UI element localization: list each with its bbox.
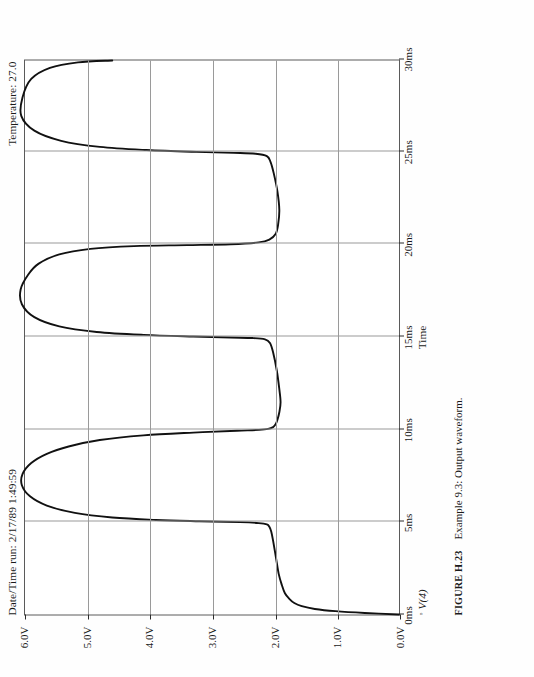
x-tick-label: 25ms bbox=[402, 140, 414, 164]
y-axis-tick bbox=[88, 614, 89, 619]
y-axis-tick bbox=[25, 614, 26, 619]
figure-number: FIGURE H.23 bbox=[453, 550, 464, 615]
y-axis-tick bbox=[338, 614, 339, 619]
date-time-run-label: Date/Time run: 2/17/89 1:49:59 bbox=[6, 468, 18, 615]
x-tick-label: 0ms bbox=[402, 606, 414, 624]
x-axis-title: Time bbox=[416, 59, 428, 615]
y-tick-label: 4.0V bbox=[143, 626, 155, 648]
x-tick-label: 30ms bbox=[402, 47, 414, 71]
y-tick-label: 3.0V bbox=[206, 626, 218, 648]
y-axis-tick bbox=[150, 614, 151, 619]
y-tick-label: 0.0V bbox=[394, 626, 406, 648]
y-gridline bbox=[213, 60, 214, 614]
y-axis-tick bbox=[213, 614, 214, 619]
figure-caption: FIGURE H.23Example 9.3: Output waveform. bbox=[452, 59, 464, 615]
figure-page: Date/Time run: 2/17/89 1:49:59 Temperatu… bbox=[0, 0, 534, 677]
x-tick-label: 5ms bbox=[402, 513, 414, 531]
x-gridline bbox=[25, 428, 399, 429]
x-gridline bbox=[25, 150, 399, 151]
x-gridline bbox=[25, 520, 399, 521]
y-tick-label: 5.0V bbox=[81, 626, 93, 648]
plot-header: Date/Time run: 2/17/89 1:49:59 Temperatu… bbox=[6, 59, 22, 615]
y-gridline bbox=[338, 60, 339, 614]
y-axis-tick-labels: 0.0V1.0V2.0V3.0V4.0V5.0V6.0V bbox=[24, 617, 400, 677]
x-tick-label: 20ms bbox=[402, 232, 414, 256]
y-tick-label: 1.0V bbox=[331, 626, 343, 648]
figure-caption-text: Example 9.3: Output waveform. bbox=[452, 397, 464, 539]
y-tick-label: 2.0V bbox=[269, 626, 281, 648]
x-tick-label: 15ms bbox=[402, 325, 414, 349]
waveform-trace bbox=[25, 60, 399, 614]
y-gridline bbox=[150, 60, 151, 614]
y-gridline bbox=[88, 60, 89, 614]
y-tick-label: 6.0V bbox=[18, 626, 30, 648]
y-axis-tick bbox=[276, 614, 277, 619]
rotated-figure: Date/Time run: 2/17/89 1:49:59 Temperatu… bbox=[0, 0, 534, 677]
x-gridline bbox=[25, 242, 399, 243]
x-tick-label: 10ms bbox=[402, 418, 414, 442]
y-axis-tick bbox=[400, 614, 401, 619]
y-gridline bbox=[276, 60, 277, 614]
x-gridline bbox=[25, 335, 399, 336]
plot-area bbox=[24, 59, 400, 615]
temperature-label: Temperature: 27.0 bbox=[6, 61, 18, 145]
